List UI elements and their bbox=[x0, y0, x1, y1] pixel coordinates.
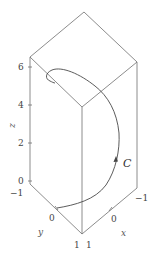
y-axis: −1 0 1 y bbox=[10, 188, 80, 250]
x-tick-1: 1 bbox=[86, 240, 92, 250]
x-tick-neg1: −1 bbox=[135, 193, 148, 203]
z-axis: 6 4 2 0 z bbox=[7, 62, 32, 186]
x-axis: 1 0 −1 x bbox=[86, 193, 148, 250]
x-axis-label: x bbox=[121, 228, 126, 238]
bounding-box bbox=[30, 12, 137, 234]
curve-label: C bbox=[123, 157, 132, 170]
z-tick-2: 2 bbox=[18, 138, 24, 148]
space-curve-plot: 6 4 2 0 z −1 0 1 y 1 0 −1 x C bbox=[0, 0, 154, 258]
z-tick-6: 6 bbox=[18, 62, 24, 72]
y-tick-1: 1 bbox=[74, 240, 80, 250]
z-tick-0: 0 bbox=[18, 176, 24, 186]
z-axis-label: z bbox=[7, 123, 17, 129]
y-tick-0: 0 bbox=[49, 213, 55, 223]
z-tick-4: 4 bbox=[18, 100, 24, 110]
x-tick-0: 0 bbox=[111, 214, 117, 224]
y-tick-neg1: −1 bbox=[10, 188, 23, 198]
curve-c: C bbox=[46, 69, 132, 208]
y-axis-label: y bbox=[37, 227, 44, 237]
